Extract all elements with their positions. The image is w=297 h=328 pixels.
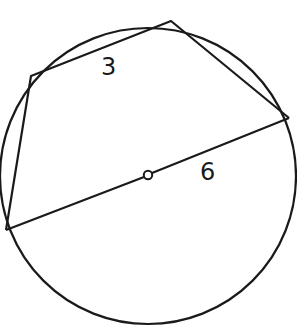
quadrilateral-sides bbox=[6, 21, 289, 230]
side-length-label-3: 3 bbox=[101, 53, 116, 81]
diameter-line-right bbox=[152, 118, 289, 173]
geometry-diagram: 3 6 bbox=[0, 0, 297, 328]
center-point bbox=[144, 171, 152, 179]
diameter-length-label-6: 6 bbox=[200, 158, 215, 186]
diameter-line-left bbox=[6, 177, 144, 230]
